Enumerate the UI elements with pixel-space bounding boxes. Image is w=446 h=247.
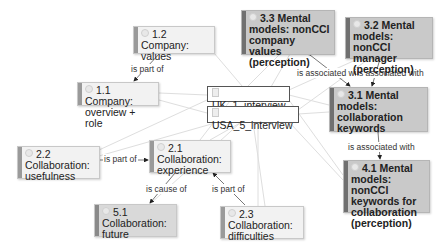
- node-label: experience: [157, 165, 226, 176]
- code-node-2-2-collaboration-usefulness[interactable]: 2.2 Collaboration: usefulness: [17, 146, 100, 179]
- code-node-1-2-company-values[interactable]: 1.2 Company: values: [133, 26, 215, 54]
- code-node-3-2-mental-models-manager[interactable]: 3.2 Mental models: nonCCI manager (perce…: [345, 17, 433, 59]
- node-label: (perception): [249, 57, 330, 68]
- code-icon: [249, 13, 257, 21]
- node-label: overview + role: [85, 107, 154, 129]
- document-node-uk-1-interview[interactable]: UK_1_interview: [207, 86, 290, 102]
- code-icon: [85, 85, 93, 93]
- document-icon: [212, 88, 219, 97]
- node-label: models: nonCCI: [353, 31, 428, 53]
- code-icon: [337, 90, 345, 98]
- code-node-2-1-collaboration-experience[interactable]: 2.1 Collaboration: experience: [149, 140, 231, 173]
- node-label: (perception): [353, 64, 428, 75]
- edge-label-is-associated-with: is associated with: [347, 142, 416, 152]
- code-icon: [102, 207, 110, 215]
- code-icon: [351, 163, 359, 171]
- edge-label-is-part-of: is part of: [103, 154, 138, 164]
- node-label: USA_5_interview: [212, 119, 293, 131]
- node-label: usefulness: [25, 171, 95, 182]
- code-node-3-1-mental-models-collaboration-keywords[interactable]: 3.1 Mental models: collaboration keyword…: [329, 87, 428, 132]
- code-icon: [141, 29, 149, 37]
- edge-label-is-part-of: is part of: [211, 184, 246, 194]
- node-label: company values: [249, 35, 330, 57]
- document-icon: [212, 108, 219, 117]
- node-label: difficulties: [228, 231, 299, 242]
- code-icon: [157, 143, 165, 151]
- node-label: values: [141, 51, 210, 62]
- code-icon: [25, 149, 33, 157]
- node-label: keywords: [337, 123, 423, 134]
- node-label: future: [102, 229, 172, 240]
- document-node-usa-5-interview[interactable]: USA_5_interview: [207, 106, 299, 123]
- edge-label-is-part-of: is part of: [130, 64, 165, 74]
- network-diagram: is part of is associated with is associa…: [0, 0, 446, 247]
- code-node-3-3-mental-models-company-values[interactable]: 3.3 Mental models: nonCCI company values…: [241, 10, 335, 55]
- edge-label-is-cause-of: is cause of: [145, 184, 188, 194]
- code-node-5-1-collaboration-future[interactable]: 5.1 Collaboration: future: [94, 204, 177, 237]
- code-icon: [228, 209, 236, 217]
- node-label: (perception): [351, 218, 425, 229]
- code-node-1-1-company-overview-role[interactable]: 1.1 Company: overview + role: [77, 82, 159, 106]
- node-label: models: nonCCI: [351, 174, 425, 196]
- code-node-2-3-collaboration-difficulties[interactable]: 2.3 Collaboration: difficulties: [220, 206, 304, 239]
- code-icon: [353, 20, 361, 28]
- code-node-4-1-mental-models-keywords-for-collaboration[interactable]: 4.1 Mental models: nonCCI keywords for c…: [343, 160, 430, 213]
